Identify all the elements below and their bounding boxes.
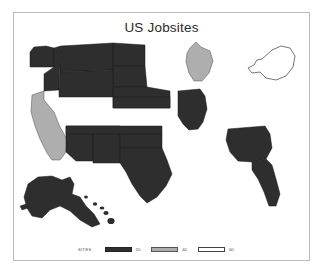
region-group-northern-tier <box>30 43 170 108</box>
map-svg <box>14 34 309 239</box>
region-north-dakota <box>113 43 145 66</box>
region-washington <box>30 46 54 67</box>
region-alaska <box>24 176 100 227</box>
region-wisconsin <box>186 42 213 81</box>
region-montana <box>60 43 113 72</box>
legend-item-20: 20 <box>105 247 141 252</box>
hawaii-island-big-island <box>107 218 114 224</box>
figure-canvas: US Jobsites <box>0 0 324 274</box>
region-california <box>31 91 67 160</box>
legend-item-60: 60 <box>198 247 234 252</box>
legend-swatch-gray <box>151 247 178 252</box>
region-wyoming <box>59 70 113 97</box>
region-missouri <box>178 89 207 130</box>
legend-value-20: 20 <box>136 247 141 252</box>
region-south-dakota <box>113 66 147 87</box>
region-new-york <box>248 46 295 80</box>
legend-swatch-light <box>198 247 225 252</box>
hawaii-island-molokai <box>100 206 105 209</box>
us-choropleth-map <box>14 34 309 239</box>
hawaii-island-maui <box>103 211 108 215</box>
region-upper-plains-fill <box>113 97 170 108</box>
region-georgia <box>226 126 272 162</box>
hawaii-island-kauai <box>84 195 88 198</box>
hawaii-island-oahu <box>93 202 97 206</box>
legend-title: SITES <box>78 247 92 252</box>
region-southwest-upper-fill <box>66 126 162 134</box>
region-group-southeast <box>226 126 280 206</box>
page-title: US Jobsites <box>13 20 310 35</box>
legend-value-40: 40 <box>182 247 187 252</box>
legend-swatch-dark <box>105 247 132 252</box>
map-legend: SITES 20 40 60 <box>78 243 243 255</box>
region-texas <box>120 148 172 203</box>
legend-item-40: 40 <box>151 247 187 252</box>
legend-value-60: 60 <box>229 247 234 252</box>
region-group-southwest <box>66 126 172 203</box>
region-florida <box>252 159 280 206</box>
